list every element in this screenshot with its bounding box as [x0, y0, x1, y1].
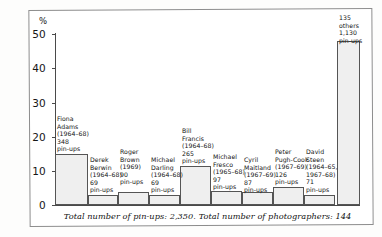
- annotation-name-line1: Michael: [213, 153, 245, 161]
- annotation-name-line2: Brown: [120, 156, 143, 164]
- y-tick-label-20: 20: [16, 132, 46, 143]
- bar-annotation-michael-fresco: Michael Fresco (1965–68) 97 pin-ups: [213, 153, 245, 191]
- annotation-unit: pin-ups: [213, 183, 245, 191]
- annotation-count: 87: [244, 179, 276, 187]
- bar-derek-berwin[interactable]: [88, 195, 118, 205]
- annotation-name-line2: Berwin: [90, 164, 122, 172]
- y-tick-label-40: 40: [16, 63, 46, 74]
- y-tick-label-10: 10: [16, 166, 46, 177]
- annotation-name-line1: Michael: [151, 156, 183, 164]
- bar-peter-pugh-cook[interactable]: [273, 187, 304, 205]
- annotation-unit: pin-ups: [306, 186, 338, 194]
- annotation-count: 97: [213, 176, 245, 184]
- annotation-name-line1: Bill: [182, 127, 214, 135]
- annotation-unit: pin-ups: [339, 37, 362, 45]
- annotation-unit: pin-ups: [275, 178, 309, 186]
- x-axis-line: [55, 205, 360, 206]
- chart-page: % 50 40 30 20 10 0 Fiona Adams (: [0, 0, 382, 237]
- bar-annotation-bill-francis: Bill Francis (1964–68) 265 pin-ups: [182, 127, 214, 165]
- annotation-years: (1964–68): [151, 171, 183, 179]
- annotation-name-line2: Steen: [306, 156, 338, 164]
- annotation-count: 69: [151, 179, 183, 187]
- y-tick-label-30: 30: [16, 98, 46, 109]
- annotation-name-line1: David: [306, 148, 338, 156]
- y-axis-unit-label: %: [39, 17, 47, 26]
- annotation-years: (1967–69): [275, 163, 309, 171]
- annotation-years: (1967–69): [244, 171, 276, 179]
- annotation-count: 126: [275, 171, 309, 179]
- annotation-count: 1,130: [339, 29, 362, 37]
- annotation-name-line2: Fresco: [213, 161, 245, 169]
- annotation-unit: pin-ups: [120, 178, 143, 186]
- annotation-years: (1964–68): [57, 130, 89, 138]
- annotation-name-line2: others: [339, 22, 362, 30]
- bar-annotation-michael-darling: Michael Darling (1964–68) 69 pin-ups: [151, 156, 183, 194]
- bar-michael-darling[interactable]: [149, 195, 180, 205]
- bar-roger-brown[interactable]: [118, 192, 149, 205]
- annotation-name-line1: 135: [339, 14, 362, 22]
- y-tick-label-0: 0: [16, 200, 46, 211]
- bar-annotation-roger-brown: Roger Brown (1969) 90 pin-ups: [120, 148, 143, 186]
- bar-annotation-peter-pugh-cook: Peter Pugh-Cook (1967–69) 126 pin-ups: [275, 148, 309, 186]
- annotation-years: (1964–68): [90, 171, 122, 179]
- annotation-unit: pin-ups: [90, 186, 122, 194]
- bar-fiona-adams[interactable]: [55, 154, 88, 205]
- annotation-years: (1965–68): [213, 168, 245, 176]
- annotation-name-line1: Cyril: [244, 156, 276, 164]
- chart-caption: Total number of pin-ups: 2,350. Total nu…: [55, 211, 360, 221]
- y-tick-mark-50: [52, 34, 56, 35]
- chart-plot-area: % 50 40 30 20 10 0 Fiona Adams (: [0, 0, 382, 237]
- annotation-count: 69: [90, 179, 122, 187]
- annotation-name-line2: Adams: [57, 123, 89, 131]
- bar-michael-fresco[interactable]: [211, 191, 242, 205]
- y-tick-mark-20: [52, 137, 56, 138]
- annotation-count: 348: [57, 138, 89, 146]
- annotation-name-line1: Derek: [90, 156, 122, 164]
- bar-david-steen[interactable]: [304, 195, 335, 205]
- annotation-name-line1: Fiona: [57, 115, 89, 123]
- annotation-years: (1964–65,: [306, 163, 338, 171]
- annotation-name-line1: Peter: [275, 148, 309, 156]
- annotation-name-line2: Francis: [182, 135, 214, 143]
- annotation-unit: pin-ups: [244, 186, 276, 194]
- bar-annotation-135-others: 135 others 1,130 pin-ups: [339, 14, 362, 44]
- bar-annotation-david-steen: David Steen (1964–65, 1967–68) 71 pin-up…: [306, 148, 338, 194]
- annotation-name-line2: Maitland: [244, 164, 276, 172]
- y-tick-mark-30: [52, 103, 56, 104]
- annotation-years: (1964–68): [182, 142, 214, 150]
- bar-annotation-cyril-maitland: Cyril Maitland (1967–69) 87 pin-ups: [244, 156, 276, 194]
- annotation-count: 90: [120, 171, 143, 179]
- annotation-name-line1: Roger: [120, 148, 143, 156]
- y-tick-mark-40: [52, 68, 56, 69]
- y-tick-label-50: 50: [16, 29, 46, 40]
- annotation-name-line2: Darling: [151, 164, 183, 172]
- annotation-unit: pin-ups: [57, 145, 89, 153]
- annotation-name-line2: Pugh-Cook: [275, 156, 309, 164]
- annotation-years: (1969): [120, 163, 143, 171]
- bar-annotation-derek-berwin: Derek Berwin (1964–68) 69 pin-ups: [90, 156, 122, 194]
- bar-bill-francis[interactable]: [180, 166, 211, 205]
- annotation-count: 71: [306, 178, 338, 186]
- bar-annotation-fiona-adams: Fiona Adams (1964–68) 348 pin-ups: [57, 115, 89, 153]
- annotation-unit: pin-ups: [182, 157, 214, 165]
- y-tick-mark-0: [52, 205, 56, 206]
- bar-135-others[interactable]: [337, 41, 360, 205]
- annotation-count: 265: [182, 150, 214, 158]
- annotation-unit: pin-ups: [151, 186, 183, 194]
- annotation-years-2: 1967–68): [306, 171, 338, 179]
